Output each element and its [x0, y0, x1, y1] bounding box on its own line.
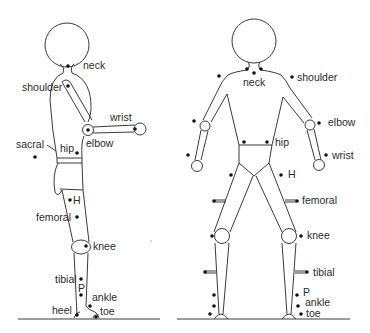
front-right-shank-inner	[282, 243, 287, 314]
side-wrist-marker	[133, 127, 137, 131]
front-label-ankle: ankle	[305, 297, 330, 308]
side-label-sacral: sacral	[16, 139, 44, 150]
front-neck-marker-right	[259, 67, 263, 71]
front-left-knee-joint	[215, 229, 230, 244]
front-left-H-marker	[229, 173, 233, 177]
front-right-thigh-inner	[256, 176, 282, 232]
front-label-tibial: tibial	[313, 267, 335, 278]
side-ankle-marker	[88, 304, 92, 308]
front-left-foot	[214, 314, 228, 319]
side-hip-marker	[75, 151, 79, 155]
front-right-ankle-marker	[296, 304, 300, 308]
front-left-hip-marker	[242, 140, 246, 144]
side-neck-left	[60, 64, 64, 73]
side-label-heel: heel	[52, 305, 72, 316]
side-label-neck: neck	[83, 60, 105, 71]
front-left-shoulder-marker	[217, 74, 221, 78]
front-right-toe-marker	[299, 312, 303, 316]
front-left-forearm-outer	[195, 130, 201, 160]
side-label-elbow: elbow	[86, 138, 113, 149]
front-label-H: H	[288, 169, 296, 180]
side-H-marker	[68, 198, 72, 202]
side-chest	[72, 73, 91, 122]
side-toe-marker	[94, 315, 98, 319]
front-right-wrist-marker	[324, 153, 328, 157]
side-sacral-marker	[33, 155, 37, 159]
front-left-thigh-inner	[230, 176, 253, 232]
front-right-shoulder-marker	[290, 75, 294, 79]
side-buttock	[54, 163, 62, 195]
front-right-hand	[314, 160, 325, 171]
front-view-figure	[186, 19, 328, 319]
front-right-knee-joint	[282, 229, 297, 244]
front-left-elbow-marker	[192, 119, 196, 123]
front-right-foot	[282, 314, 296, 319]
marker-placement-diagram: neck shoulder wrist elbow sacral hip H f…	[0, 0, 370, 333]
side-neck-right	[71, 64, 74, 73]
front-left-toe-marker	[208, 312, 212, 316]
front-right-elbow-joint	[305, 120, 315, 130]
side-thigh-front	[83, 190, 89, 242]
front-label-hip: hip	[275, 137, 289, 148]
front-right-hip-marker	[265, 140, 269, 144]
side-knee-joint	[72, 240, 91, 254]
side-label-toe: toe	[100, 306, 115, 317]
side-elbow-marker	[86, 128, 90, 132]
front-left-shank-inner	[223, 243, 229, 314]
front-left-elbow-joint	[200, 121, 210, 131]
front-left-forearm-inner	[201, 131, 208, 160]
front-left-femoral-marker	[212, 199, 216, 203]
front-left-ankle-marker	[212, 304, 216, 308]
front-right-forearm-outer	[314, 129, 321, 160]
side-thigh-top	[60, 189, 83, 190]
front-right-tibial-marker	[305, 270, 309, 274]
front-right-femoral-marker	[295, 199, 299, 203]
front-left-tibial-marker	[203, 270, 207, 274]
front-left-shank-outer	[215, 243, 219, 314]
front-right-shank-outer	[291, 243, 296, 314]
side-label-shoulder: shoulder	[22, 82, 62, 93]
speck	[150, 240, 152, 242]
front-right-forearm-inner	[307, 130, 315, 160]
front-right-knee-marker	[299, 234, 303, 238]
front-torso-left	[227, 94, 239, 145]
front-shoulder-right	[261, 70, 290, 88]
front-right-P-marker	[295, 293, 299, 297]
side-label-femoral: femoral	[36, 212, 71, 223]
front-right-tibial-wand	[295, 271, 306, 273]
side-femoral-marker	[75, 215, 79, 219]
front-right-H-marker	[279, 173, 283, 177]
side-neck-marker	[66, 64, 70, 68]
side-knee-marker	[84, 244, 88, 248]
front-left-thigh-outer	[214, 163, 239, 232]
front-label-knee: knee	[307, 230, 330, 241]
front-left-upperarm-outer	[203, 90, 218, 120]
side-label-tibial: tibial	[55, 274, 77, 285]
front-label-wrist: wrist	[332, 150, 354, 161]
front-left-hand	[192, 161, 203, 172]
front-label-neck: neck	[243, 77, 265, 88]
side-label-knee: knee	[93, 241, 116, 252]
side-shank-front	[86, 253, 99, 318]
front-right-elbow-marker	[317, 121, 321, 125]
side-tibial-marker	[79, 277, 83, 281]
side-label-hip: hip	[60, 143, 74, 154]
side-label-wrist: wrist	[110, 112, 132, 123]
front-left-femoral-wand	[215, 200, 226, 202]
front-head	[232, 19, 276, 63]
side-shoulder-marker	[66, 84, 70, 88]
side-pelvis-front	[82, 163, 83, 190]
front-label-toe: toe	[306, 308, 321, 319]
side-forearm-top	[93, 125, 135, 127]
side-label-H: H	[73, 195, 81, 206]
side-heel-marker	[75, 313, 79, 317]
side-label-ankle: ankle	[92, 292, 117, 303]
front-left-P-marker	[212, 293, 216, 297]
front-left-wrist-marker	[186, 153, 190, 157]
front-label-elbow: elbow	[328, 117, 355, 128]
front-label-shoulder: shoulder	[297, 72, 337, 83]
front-right-upperarm-inner	[283, 97, 304, 123]
front-left-knee-marker	[210, 234, 214, 238]
side-label-P: P	[78, 283, 85, 294]
side-abdomen	[82, 136, 84, 158]
